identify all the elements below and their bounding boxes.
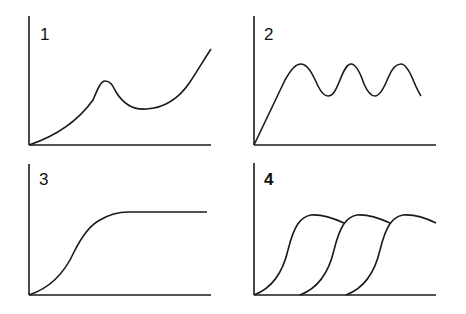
panel-1-label: 1 bbox=[40, 26, 49, 43]
panel-4 bbox=[254, 163, 436, 295]
panel-1-curve bbox=[29, 49, 211, 145]
panel-4-curve-2 bbox=[300, 215, 390, 295]
panel-3-label: 3 bbox=[39, 171, 48, 188]
panel-4-label: 4 bbox=[264, 171, 273, 188]
panel-2 bbox=[254, 16, 436, 145]
panel-2-curve bbox=[254, 64, 421, 145]
panel-3-curve bbox=[29, 212, 207, 295]
panel-3 bbox=[29, 164, 211, 295]
panel-1 bbox=[29, 16, 211, 145]
panel-4-curve-3 bbox=[346, 215, 436, 295]
panel-4-curve-1 bbox=[254, 215, 344, 295]
four-panel-diagram bbox=[0, 0, 466, 314]
panel-2-label: 2 bbox=[264, 26, 273, 43]
